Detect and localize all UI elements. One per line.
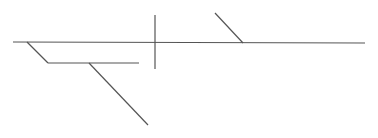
upper-right-diagonal-line bbox=[215, 13, 243, 43]
lower-diagonal-branch-line bbox=[89, 63, 148, 125]
main-spine-line bbox=[13, 42, 365, 43]
left-diagonal-line bbox=[27, 42, 48, 63]
line-diagram bbox=[0, 0, 378, 138]
diagram-segments bbox=[13, 13, 365, 125]
